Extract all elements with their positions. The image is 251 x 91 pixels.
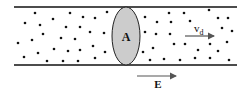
charge-dot [39,24,42,27]
charge-dot [69,12,72,15]
charge-dot [184,43,187,46]
charge-dot [227,17,230,20]
charge-dot [168,12,171,15]
charge-dot [221,27,224,30]
charge-dot [34,12,37,15]
charge-dot [23,56,26,59]
charge-dot [37,52,40,55]
charge-dot [179,59,182,62]
charge-dot [149,59,152,62]
drift-velocity-subscript: d [200,28,204,37]
conductor-diagram: A vd E [0,0,251,91]
charge-dot [169,33,172,36]
charge-dot [52,18,55,21]
charge-dot [155,33,158,36]
charge-dot [104,51,107,54]
charge-dot [65,26,68,29]
charge-dot [228,59,231,62]
charge-dot [173,43,176,46]
charge-dot [46,60,49,63]
charge-dot [74,38,77,41]
charge-dot [208,9,211,12]
charge-dot [92,45,95,48]
charge-dot [17,42,20,45]
charge-dot [144,31,147,34]
charge-dot [170,21,173,24]
charge-dot [209,43,212,46]
charge-dot [82,16,85,19]
charge-dot [53,48,56,51]
charge-dot [77,60,80,63]
charge-dot [209,57,212,60]
charge-dot [79,49,82,52]
charge-dot [183,12,186,15]
charge-dot [89,31,92,34]
drift-velocity-label: vd [194,22,204,37]
charge-dot [197,49,200,52]
electric-field-label: E [154,78,161,90]
charge-dot [194,57,197,60]
charge-dot [231,30,234,33]
charge-dot [60,37,63,40]
charge-dot [31,39,34,42]
charge-dot [226,41,229,44]
charge-dot [94,17,97,20]
charge-dot [94,57,97,60]
cross-section-label: A [122,30,131,44]
charge-dot [67,50,70,53]
charge-dot [79,26,82,29]
charge-dot [217,50,220,53]
charge-dot [106,11,109,14]
charge-dot [156,21,159,24]
charge-dot [189,20,192,23]
charge-dot [152,47,155,50]
charge-dot [142,51,145,54]
charge-dot [62,60,65,63]
charge-dot [103,32,106,35]
charge-dot [24,22,27,25]
charge-dot [42,33,45,36]
charge-dot [163,58,166,61]
charge-dot [217,17,220,20]
charge-dot [144,16,147,19]
